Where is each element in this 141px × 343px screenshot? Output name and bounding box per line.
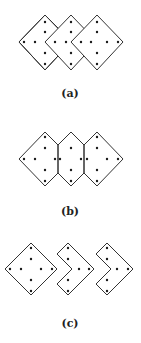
panel-b: (b): [19, 132, 123, 218]
dots-b1: [23, 136, 56, 182]
dots-c1: [9, 247, 53, 292]
panel-label-b: (b): [61, 205, 79, 218]
panel-label-a: (a): [61, 87, 79, 100]
dots-b3: [86, 136, 119, 182]
figure-canvas: (a) (b): [0, 0, 141, 343]
diamond-c1: [5, 243, 57, 295]
panel-label-c: (c): [61, 317, 78, 330]
panel-a: (a): [19, 15, 123, 100]
panel-c: (c): [5, 243, 133, 330]
